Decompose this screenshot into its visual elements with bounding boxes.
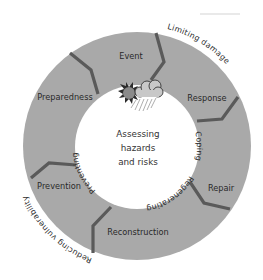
- disaster-cycle-diagram: Event Response Repair Reconstruction Pre…: [0, 0, 263, 280]
- segment-label-response: Response: [187, 93, 226, 103]
- center-label-line-3: and risks: [118, 157, 158, 167]
- segment-label-preparedness: Preparedness: [37, 92, 92, 102]
- segment-label-event: Event: [119, 51, 143, 61]
- segment-label-reconstruction: Reconstruction: [107, 227, 168, 237]
- segment-label-repair: Repair: [208, 183, 235, 193]
- center-label-line-1: Assessing: [116, 129, 159, 139]
- center-label-line-2: hazards: [121, 143, 156, 153]
- segment-label-prevention: Prevention: [37, 181, 81, 191]
